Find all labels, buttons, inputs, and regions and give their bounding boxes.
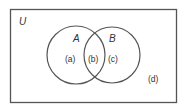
universe-label: U xyxy=(19,16,27,27)
set-a-label: A xyxy=(72,33,80,44)
region-c-label: (c) xyxy=(108,54,118,64)
venn-diagram: U A B (a) (b) (c) (d) xyxy=(0,0,183,109)
region-d-label: (d) xyxy=(148,74,159,84)
region-a-label: (a) xyxy=(65,54,76,64)
set-b-label: B xyxy=(109,33,116,44)
region-b-label: (b) xyxy=(88,54,99,64)
